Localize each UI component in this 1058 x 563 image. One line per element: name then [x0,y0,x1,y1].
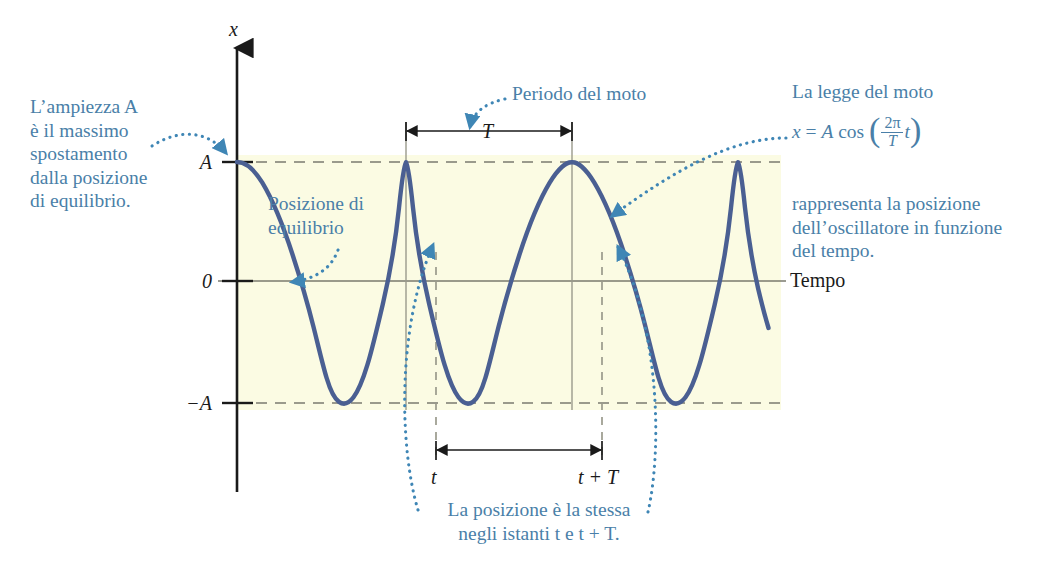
annotation-amplitude: L’ampiezza A è il massimo spostamento da… [30,95,185,213]
label-time-t-plus-T: t + T [578,466,618,489]
annotation-same-position: La posizione è la stessa negli istanti t… [404,498,674,545]
equation-lhs: x [792,121,801,142]
tick-label-negative-a: −A [172,392,212,415]
annotation-law-outro: rappresenta la posizione dell’oscillator… [792,192,1027,263]
equation-denominator: T [881,132,903,150]
equation-law-of-motion: x = A cos (2πTt) [792,116,921,151]
axis-label-tempo: Tempo [790,269,845,292]
equation-amplitude: A [821,121,833,142]
equation-numerator: 2π [881,115,903,132]
annotation-period: Periodo del moto [512,82,646,106]
label-period-T: T [482,120,493,143]
equation-fraction: 2πT [881,115,903,150]
figure-canvas: L’ampiezza A è il massimo spostamento da… [0,0,1058,563]
equation-function: cos [838,121,864,142]
tick-label-positive-a: A [180,151,212,174]
annotation-law-intro: La legge del moto [792,80,933,104]
axis-label-x: x [229,18,238,41]
annotation-equilibrium: Posizione di equilibrio [268,192,418,239]
tick-label-zero: 0 [180,270,212,293]
label-time-t: t [431,466,437,489]
equation-equals: = [806,121,817,142]
